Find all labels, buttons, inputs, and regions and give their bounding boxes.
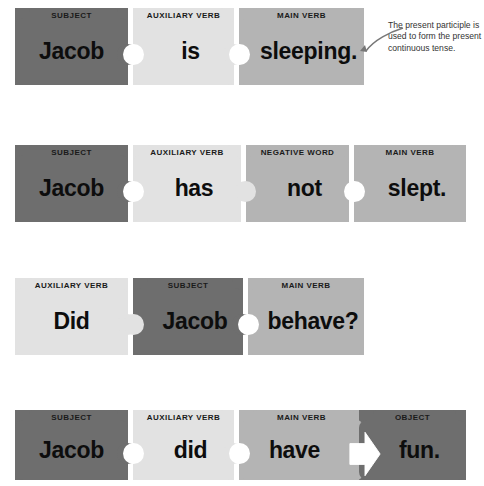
sentence-row-4: SUBJECT Jacob AUXILIARY VERB did MAIN VE…: [0, 410, 481, 486]
piece-word: slept.: [354, 155, 466, 222]
puzzle-piece-subject[interactable]: SUBJECT Jacob: [133, 278, 243, 355]
piece-word: Jacob: [15, 18, 128, 85]
piece-word: has: [133, 155, 241, 222]
puzzle-piece-main-verb[interactable]: MAIN VERB behave?: [248, 278, 364, 355]
puzzle-piece-auxiliary-verb[interactable]: AUXILIARY VERB Did: [15, 278, 128, 355]
piece-word: Jacob: [15, 420, 128, 480]
piece-word: Jacob: [15, 155, 128, 222]
sentence-row-2: SUBJECT Jacob AUXILIARY VERB has NEGATIV…: [0, 145, 481, 225]
puzzle-piece-auxiliary-verb[interactable]: AUXILIARY VERB is: [133, 8, 234, 85]
piece-word: have: [239, 420, 364, 480]
piece-word: did: [133, 420, 234, 480]
piece-word: Did: [15, 288, 128, 355]
arrow-connector-icon: [348, 428, 382, 480]
piece-word: Jacob: [133, 288, 243, 355]
piece-word: behave?: [248, 288, 364, 355]
sentence-row-3: AUXILIARY VERB Did SUBJECT Jacob MAIN VE…: [0, 278, 481, 358]
puzzle-piece-main-verb[interactable]: MAIN VERB have: [239, 410, 364, 480]
puzzle-piece-subject[interactable]: SUBJECT Jacob: [15, 145, 128, 222]
piece-word: is: [133, 18, 234, 85]
annotation-arrow-icon: [340, 24, 406, 66]
puzzle-piece-negative-word[interactable]: NEGATIVE WORD not: [246, 145, 349, 222]
puzzle-piece-subject[interactable]: SUBJECT Jacob: [15, 8, 128, 85]
puzzle-piece-auxiliary-verb[interactable]: AUXILIARY VERB did: [133, 410, 234, 480]
piece-word: not: [246, 155, 349, 222]
puzzle-piece-subject[interactable]: SUBJECT Jacob: [15, 410, 128, 480]
puzzle-piece-auxiliary-verb[interactable]: AUXILIARY VERB has: [133, 145, 241, 222]
puzzle-piece-main-verb[interactable]: MAIN VERB slept.: [354, 145, 466, 222]
